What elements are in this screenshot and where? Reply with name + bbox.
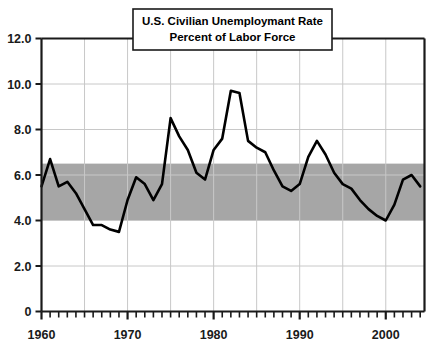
x-tick-label-1970: 1970: [114, 328, 142, 342]
x-tick-label-1990: 1990: [286, 328, 314, 342]
y-tick-label-8: 8.0: [14, 123, 31, 137]
shaded-range-band: [42, 164, 425, 221]
chart-title-line2: Percent of Labor Force: [170, 31, 296, 43]
y-tick-label-4: 4.0: [14, 214, 31, 228]
x-tick-label-2000: 2000: [372, 328, 400, 342]
chart-figure: 12.010.08.06.04.02.00 196019701980199020…: [0, 0, 438, 354]
y-tick-label-10: 10.0: [7, 78, 31, 92]
y-tick-label-6: 6.0: [14, 169, 31, 183]
shaded-band-group: [42, 164, 425, 221]
y-tick-label-0: 0: [25, 305, 32, 319]
chart-title-line1: U.S. Civilian Unemploymant Rate: [142, 15, 323, 27]
chart-title-box: U.S. Civilian Unemploymant Rate Percent …: [133, 9, 332, 50]
y-tick-label-2: 2.0: [14, 260, 31, 274]
unemployment-rate-line-chart: 12.010.08.06.04.02.00 196019701980199020…: [0, 0, 438, 354]
y-tick-label-12: 12.0: [7, 32, 31, 46]
x-tick-label-1960: 1960: [28, 328, 56, 342]
x-tick-label-1980: 1980: [200, 328, 228, 342]
